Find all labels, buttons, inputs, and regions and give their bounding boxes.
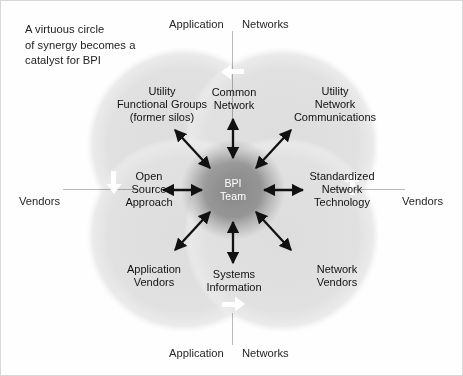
figure-frame: A virtuous circle of synergy becomes a c…	[0, 0, 463, 376]
axis-label-left-vendors: Vendors	[19, 195, 60, 207]
node-line: Vendors	[106, 276, 202, 289]
axis-label-top-networks: Networks	[242, 18, 289, 30]
node-open-source-approach: Open Source Approach	[106, 170, 192, 210]
node-line: Open	[106, 170, 192, 183]
axis-label-top-application: Application	[169, 18, 224, 30]
caption-line-2: of synergy becomes a	[25, 38, 205, 54]
axis-label-bottom-networks: Networks	[242, 347, 289, 359]
node-line: Communications	[273, 111, 397, 124]
node-line: Network	[273, 98, 397, 111]
caption-line-3: catalyst for BPI	[25, 53, 205, 69]
node-line: Technology	[287, 196, 397, 209]
node-line: Systems	[191, 268, 277, 281]
node-line: Network	[291, 263, 383, 276]
node-line: Vendors	[291, 276, 383, 289]
node-line: Utility	[273, 85, 397, 98]
node-line: (former silos)	[86, 111, 238, 124]
node-application-vendors: Application Vendors	[106, 263, 202, 289]
node-utility-network-communications: Utility Network Communications	[273, 85, 397, 125]
node-line: Application	[106, 263, 202, 276]
node-line: Approach	[106, 196, 192, 209]
node-line: Team	[198, 190, 268, 203]
axis-label-bottom-application: Application	[169, 347, 224, 359]
node-line: Network	[287, 183, 397, 196]
node-line: Common	[193, 86, 275, 99]
venn-diagram: A virtuous circle of synergy becomes a c…	[1, 1, 463, 376]
node-systems-information: Systems Information	[191, 268, 277, 294]
node-common-network: Common Network	[193, 86, 275, 112]
node-standardized-network-technology: Standardized Network Technology	[287, 170, 397, 210]
node-bpi-team: BPI Team	[198, 177, 268, 202]
node-network-vendors: Network Vendors	[291, 263, 383, 289]
node-line: BPI	[198, 177, 268, 190]
node-line: Network	[193, 99, 275, 112]
node-line: Standardized	[287, 170, 397, 183]
node-line: Source	[106, 183, 192, 196]
axis-label-right-vendors: Vendors	[402, 195, 443, 207]
node-line: Information	[191, 281, 277, 294]
